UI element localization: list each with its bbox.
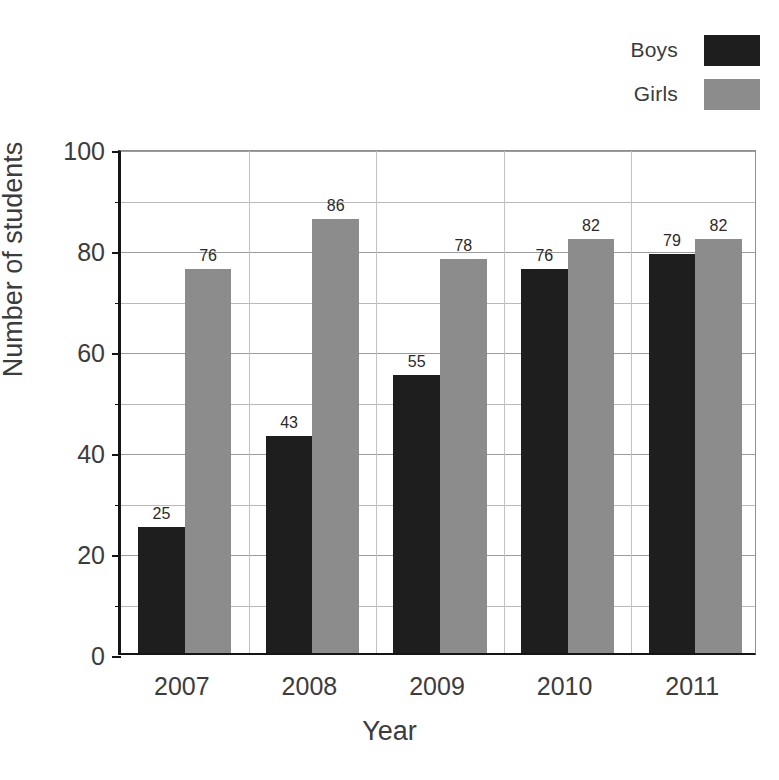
bar-girls-2007[interactable]: 76 <box>185 269 232 653</box>
bar-value-label: 76 <box>199 247 217 265</box>
x-axis-tick-label-2007: 2007 <box>154 672 210 701</box>
bar-girls-2008[interactable]: 86 <box>312 219 359 653</box>
bar-value-label: 79 <box>663 232 681 250</box>
bar-boys-2009[interactable]: 55 <box>393 375 440 653</box>
y-axis-tick-minor <box>115 505 121 506</box>
bar-girls-2009[interactable]: 78 <box>440 259 487 653</box>
legend-entry-girls: Girls <box>600 72 760 116</box>
bar-girls-2011[interactable]: 82 <box>695 239 742 653</box>
y-axis-tick <box>112 252 121 254</box>
plot-area: 02040608010025764386557876827982 <box>118 150 756 655</box>
x-axis-tick-label-2008: 2008 <box>282 672 338 701</box>
gridline-vertical <box>504 151 505 653</box>
y-axis-tick-label: 100 <box>63 137 105 166</box>
y-axis-tick-minor <box>115 606 121 607</box>
y-axis-tick-label: 40 <box>77 440 105 469</box>
y-axis-tick <box>112 353 121 355</box>
bar-value-label: 55 <box>408 353 426 371</box>
bar-boys-2007[interactable]: 25 <box>138 527 185 653</box>
legend-label-girls: Girls <box>634 82 678 106</box>
bar-value-label: 82 <box>582 217 600 235</box>
legend-swatch-girls <box>704 79 760 110</box>
y-axis-tick-label: 20 <box>77 541 105 570</box>
y-axis-title: Number of students <box>0 100 29 420</box>
y-axis-tick <box>112 151 121 153</box>
y-axis-tick-minor <box>115 202 121 203</box>
bar-value-label: 86 <box>327 197 345 215</box>
y-axis-tick-minor <box>115 303 121 304</box>
bar-value-label: 76 <box>535 247 553 265</box>
y-axis-tick <box>112 555 121 557</box>
legend-swatch-boys <box>704 35 760 66</box>
x-axis-tick-label-2009: 2009 <box>409 672 465 701</box>
gridline-horizontal <box>121 202 755 203</box>
y-axis-tick <box>112 656 121 658</box>
gridline-vertical <box>376 151 377 653</box>
y-axis-tick <box>112 454 121 456</box>
y-axis-tick-minor <box>115 404 121 405</box>
bar-girls-2010[interactable]: 82 <box>568 239 615 653</box>
bar-value-label: 78 <box>454 237 472 255</box>
gridline-vertical <box>631 151 632 653</box>
y-axis-tick-label: 60 <box>77 339 105 368</box>
chart-page: Boys Girls Number of students 0204060801… <box>0 0 779 780</box>
x-axis-tick-label-2010: 2010 <box>537 672 593 701</box>
x-axis-title: Year <box>0 716 779 747</box>
y-axis-tick-label: 80 <box>77 238 105 267</box>
bar-boys-2010[interactable]: 76 <box>521 269 568 653</box>
x-axis-tick-label-2011: 2011 <box>665 672 719 701</box>
gridline-vertical <box>249 151 250 653</box>
y-axis-tick-label: 0 <box>91 642 105 671</box>
bar-value-label: 25 <box>153 505 171 523</box>
bar-boys-2011[interactable]: 79 <box>649 254 696 653</box>
gridline-horizontal <box>121 151 755 152</box>
legend-entry-boys: Boys <box>600 28 760 72</box>
bar-value-label: 82 <box>710 217 728 235</box>
chart-legend: Boys Girls <box>600 28 760 116</box>
bar-boys-2008[interactable]: 43 <box>266 436 313 653</box>
bar-value-label: 43 <box>280 414 298 432</box>
legend-label-boys: Boys <box>631 38 679 62</box>
